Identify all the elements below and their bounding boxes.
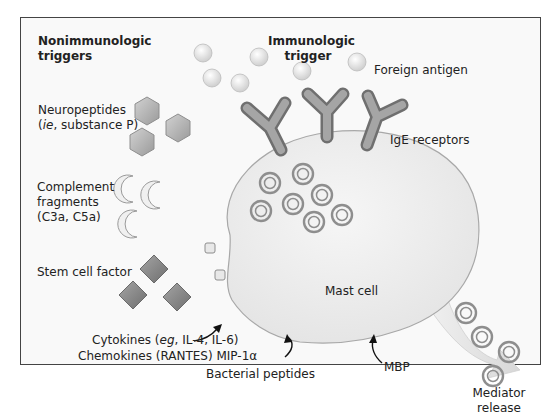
neuropeptides-line1: Neuropeptides (38, 103, 138, 118)
cytokines-rest: , IL-4, IL-6) (175, 333, 239, 347)
title-right-line2: trigger (268, 49, 348, 64)
nonimmunologic-triggers-title: Nonimmunologic triggers (38, 34, 151, 64)
title-left-line2: triggers (38, 49, 151, 64)
complement-line2: fragments (37, 195, 114, 210)
immunologic-trigger-title: Immunologic trigger (268, 34, 348, 64)
cytokines-prefix: Cytokines ( (92, 333, 160, 347)
neuropeptides-rest: , substance P) (53, 118, 138, 132)
stem-cell-factor-diamond-icons (119, 255, 191, 311)
title-left-line1: Nonimmunologic (38, 34, 151, 49)
chemokines-label: Chemokines (RANTES) MIP-1α (78, 349, 257, 364)
complement-line3: (C3a, C5a) (37, 210, 114, 225)
membrane-receptor-icons (205, 243, 225, 280)
neuropeptides-line2: (ie, substance P) (38, 118, 138, 133)
neuropeptide-hexagon-icons (130, 97, 190, 156)
mediator-release-label: Mediator release (464, 386, 534, 416)
mediator-line2: release (464, 401, 534, 416)
neuropeptides-label: Neuropeptides (ie, substance P) (38, 103, 138, 133)
cytokines-label: Cytokines (eg, IL-4, IL-6) (92, 333, 238, 348)
cytokines-italic: eg (160, 333, 175, 347)
complement-fragments-label: Complement fragments (C3a, C5a) (37, 180, 114, 225)
bacterial-peptides-label: Bacterial peptides (206, 367, 315, 382)
mediator-line1: Mediator (464, 386, 534, 401)
title-right-line1: Immunologic (268, 34, 348, 49)
foreign-antigen-label: Foreign antigen (374, 63, 468, 78)
mbp-label: MBP (384, 360, 410, 375)
ige-receptors-label: IgE receptors (390, 133, 469, 148)
stem-cell-factor-label: Stem cell factor (37, 265, 132, 280)
complement-line1: Complement (37, 180, 114, 195)
complement-crescent-icons (114, 175, 160, 238)
mast-cell-label: Mast cell (325, 284, 378, 299)
neuropeptides-italic: ie (43, 118, 54, 132)
